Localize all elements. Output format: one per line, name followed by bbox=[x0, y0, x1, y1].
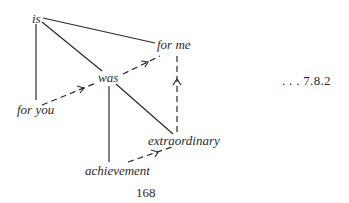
edge-is-for-me bbox=[43, 18, 155, 43]
node-achievement: achievement bbox=[85, 164, 150, 177]
dashed-was-for-me bbox=[123, 56, 160, 74]
page-number: 168 bbox=[136, 186, 156, 199]
node-for-you: for you bbox=[17, 103, 54, 116]
node-for-me: for me bbox=[157, 38, 191, 51]
node-is: is bbox=[32, 12, 41, 25]
reference-label: . . . 7.8.2 bbox=[282, 74, 331, 87]
node-was: was bbox=[98, 71, 118, 84]
node-extraordinary: extraordinary bbox=[148, 134, 220, 147]
dashed-achievement-extraordinary bbox=[128, 147, 172, 162]
edge-was-extraordinary bbox=[116, 84, 173, 134]
